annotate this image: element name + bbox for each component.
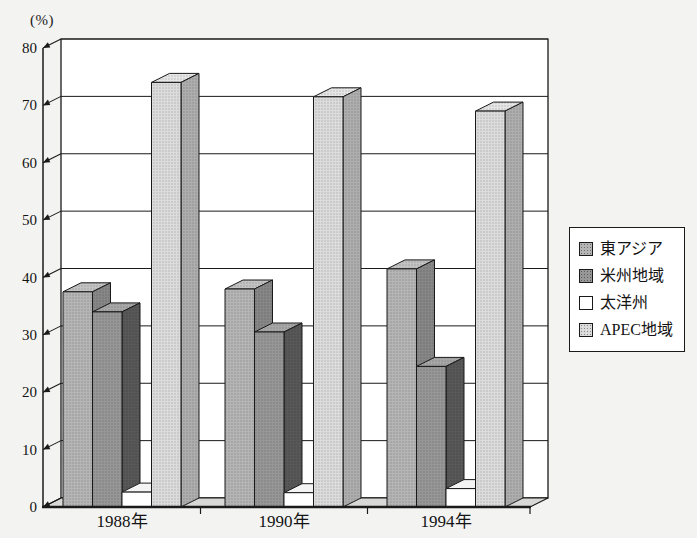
svg-text:30: 30 <box>22 327 37 343</box>
legend-item-oceania: 太洋州 <box>579 295 684 311</box>
legend-label: 太洋州 <box>600 295 648 311</box>
legend-item-americas: 米州地域 <box>579 268 684 284</box>
east-asia-swatch-icon <box>579 242 593 256</box>
svg-text:40: 40 <box>22 270 37 286</box>
x-axis-category-label: 1994年 <box>421 512 472 531</box>
legend-item-east-asia: 東アジア <box>579 241 684 257</box>
americas-swatch-icon <box>579 269 593 283</box>
legend-label: 東アジア <box>600 241 663 257</box>
svg-text:0: 0 <box>30 499 38 515</box>
svg-text:20: 20 <box>22 384 37 400</box>
chart-page: (%) 010203040506070801988年1990年1994年 東アジ… <box>0 0 697 538</box>
svg-text:50: 50 <box>22 212 37 228</box>
svg-text:10: 10 <box>22 442 37 458</box>
svg-text:80: 80 <box>22 40 37 56</box>
chart-legend: 東アジア 米州地域 太洋州 APEC地域 <box>569 227 685 352</box>
chart-plot-area: 010203040506070801988年1990年1994年 <box>22 39 548 531</box>
x-axis-category-label: 1988年 <box>97 512 148 531</box>
svg-text:60: 60 <box>22 155 37 171</box>
oceania-swatch-icon <box>579 296 593 310</box>
svg-text:70: 70 <box>22 97 37 113</box>
x-axis-category-label: 1990年 <box>259 512 310 531</box>
legend-label: 米州地域 <box>600 268 664 284</box>
apec-swatch-icon <box>579 323 593 337</box>
legend-item-apec: APEC地域 <box>579 322 684 338</box>
legend-label: APEC地域 <box>600 322 673 338</box>
